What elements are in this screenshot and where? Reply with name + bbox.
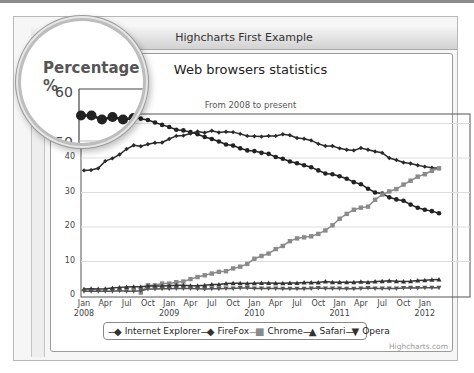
legend-item-safari[interactable]: —▲Safari <box>303 326 346 337</box>
x-year-label: 2008 <box>72 309 96 318</box>
highcharts-credits-link[interactable]: Highcharts.com <box>389 342 448 351</box>
x-year-label: 2012 <box>413 309 437 318</box>
x-year-label: 2009 <box>157 309 181 318</box>
legend-label: FireFox <box>217 326 248 336</box>
legend-label: Internet Explorer <box>125 326 201 336</box>
x-tick-label: Jan <box>413 299 437 308</box>
y-tick-label: 30 <box>55 187 75 196</box>
y-tick-label: 0 <box>55 290 75 299</box>
x-year-label: 2010 <box>242 309 266 318</box>
series-chrome[interactable] <box>139 166 442 295</box>
chart-legend: —◆Internet Explorer—◆FireFox—■Chrome—▲Sa… <box>103 322 367 340</box>
magnifier-loupe: Percentage % 60 50 <box>21 21 143 143</box>
y-tick-label: 40 <box>55 152 75 161</box>
legend-item-opera[interactable]: —▼Opera <box>346 326 390 337</box>
legend-item-firefox[interactable]: —◆FireFox <box>201 326 249 337</box>
legend-marker-icon: —◆ <box>201 326 211 337</box>
legend-marker-icon: —▼ <box>346 326 356 337</box>
legend-item-chrome[interactable]: —■Chrome <box>249 326 303 337</box>
legend-label: Opera <box>362 326 390 336</box>
x-year-label: 2011 <box>328 309 352 318</box>
legend-label: Safari <box>319 326 345 336</box>
y-tick-50-magnified: 50 <box>55 134 73 143</box>
y-tick-label: 20 <box>55 221 75 230</box>
legend-marker-icon: —■ <box>249 326 260 337</box>
legend-marker-icon: —◆ <box>108 326 118 337</box>
legend-label: Chrome <box>267 326 302 336</box>
legend-item-internet-explorer[interactable]: —◆Internet Explorer <box>108 326 201 337</box>
y-tick-label: 10 <box>55 256 75 265</box>
y-tick-60-magnified: 60 <box>55 84 73 100</box>
legend-marker-icon: —▲ <box>303 326 313 337</box>
